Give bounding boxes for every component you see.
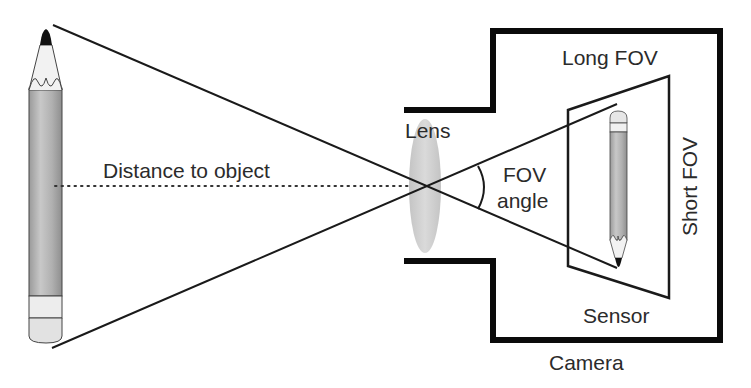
camera-label: Camera [549, 352, 624, 373]
short-fov-label: Short FOV [679, 135, 700, 239]
camera-fov-diagram: Distance to object Lens FOV angle Long F… [0, 0, 751, 388]
lens-label: Lens [405, 120, 451, 141]
distance-label: Distance to object [103, 160, 270, 181]
sensor-label: Sensor [583, 305, 650, 326]
long-fov-label: Long FOV [562, 47, 658, 68]
camera-body-outline [404, 31, 720, 340]
fov-angle-arc [478, 166, 484, 209]
image-pencil-icon [610, 111, 627, 267]
fov-angle-label-line2: angle [497, 190, 548, 211]
fov-angle-label-line1: FOV [503, 164, 546, 185]
